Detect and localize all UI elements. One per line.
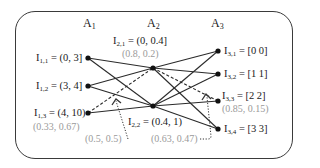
node-i33 (215, 98, 220, 103)
edge-i13-i22 (88, 106, 153, 113)
label-i11: I1,1 = (0, 3] (36, 53, 82, 65)
header-a1: A1 (83, 17, 96, 31)
edge-i12-i21 (88, 68, 153, 86)
edge-i11-i21 (88, 58, 153, 68)
label-i22: I2,2 = (0.4, 1) (128, 117, 182, 129)
label-i33: I3,3 = [2 2] (222, 91, 266, 103)
node-i31 (215, 48, 220, 53)
header-a3: A3 (211, 17, 224, 31)
node-i32 (215, 71, 220, 76)
edge-i13-i21 (88, 68, 153, 113)
prob-i21: (0.8, 0.2) (122, 49, 159, 59)
label-i34: I3,4 = [3 3] (224, 124, 268, 136)
node-i12 (85, 83, 90, 88)
node-i22 (150, 103, 155, 108)
node-i13 (85, 110, 90, 115)
edge-i11-i22 (88, 58, 153, 106)
label-i13: I1,3 = (4, 10) (34, 108, 85, 120)
node-i21 (150, 65, 155, 70)
label-i21: I2,1 = (0, 0.4] (113, 36, 167, 48)
label-i31: I3,1 = [0 0] (224, 46, 268, 58)
label-i32: I3,2 = [1 1] (224, 69, 268, 81)
annotation-05: (0.5, 0.5) (85, 134, 122, 144)
arrowhead-063 (202, 94, 211, 100)
node-i11 (85, 55, 90, 60)
label-i12: I1,2 = (3, 4] (36, 81, 82, 93)
header-a2: A2 (147, 17, 160, 31)
prob-i13: (0.33, 0.67) (33, 122, 80, 132)
prob-i33: (0.85, 0.15) (222, 104, 269, 114)
annotation-063: (0.63, 0.47) (151, 134, 198, 144)
node-i34 (215, 126, 220, 131)
